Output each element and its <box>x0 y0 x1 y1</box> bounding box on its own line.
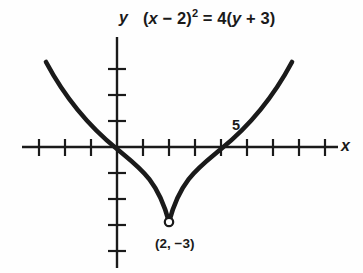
parabola-figure: (x − 2)2 = 4(y + 3) y x 5 (2, −3) <box>0 0 363 273</box>
equation-rhs-close: ) <box>270 9 276 27</box>
x-tick-label-5: 5 <box>232 118 240 133</box>
equation-rhs-plus: + <box>241 9 260 27</box>
equation-equals: = <box>198 9 217 27</box>
x-axis-label: x <box>341 138 350 154</box>
equation-label: (x − 2)2 = 4(y + 3) <box>143 8 275 26</box>
y-axis-label: y <box>119 10 128 26</box>
equation-lhs-number: 2 <box>177 9 186 27</box>
equation-lhs-minus: − <box>158 9 177 27</box>
equation-rhs-variable: y <box>232 9 241 27</box>
equation-rhs-number: 3 <box>260 9 269 27</box>
equation-rhs-coefficient: 4( <box>217 9 232 27</box>
vertex-coordinate-label: (2, −3) <box>155 237 194 251</box>
graph-canvas <box>0 0 363 273</box>
equation-lhs-variable: x <box>149 9 158 27</box>
vertex-open-circle-marker <box>165 218 173 226</box>
